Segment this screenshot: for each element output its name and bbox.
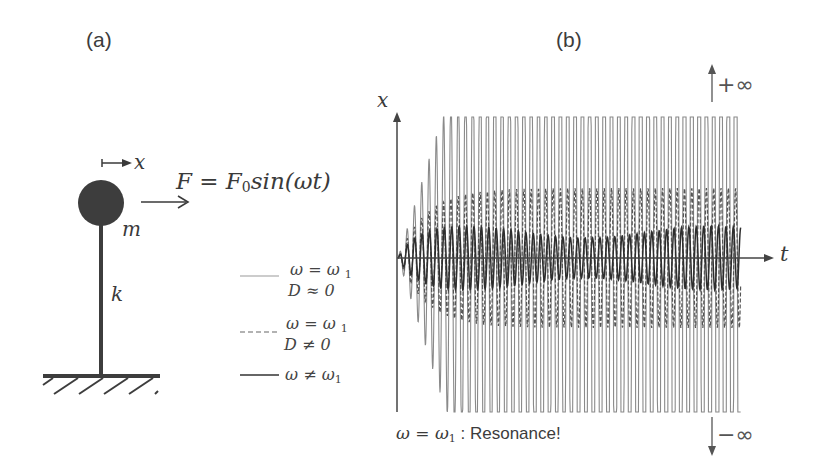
mass-label: m (122, 217, 141, 241)
force-arrow-icon (141, 196, 188, 208)
force-equation: F = F0sin(ωt) (176, 168, 331, 195)
minus-infinity-arrow-icon (708, 417, 716, 456)
legend-item-off-resonance: ω ≠ ω1 (285, 367, 342, 388)
resonance-caption: ω = ω1 : Resonance! (396, 423, 561, 445)
minus-infinity-label: −∞ (717, 422, 754, 447)
legend-line2: D ≈ 0 (288, 281, 335, 300)
plus-infinity-arrow-icon (708, 64, 716, 102)
displacement-arrow-icon (102, 159, 132, 167)
mass-ball (78, 180, 124, 226)
caption-subscript: 1 (449, 432, 456, 445)
legend-line1: ω = ω (290, 260, 340, 279)
legend-line1: ω ≠ ω (285, 365, 335, 384)
force-subscript: 0 (242, 179, 251, 195)
caption-text: : Resonance! (456, 424, 561, 443)
y-axis-label: x (377, 88, 388, 112)
force-equation-lhs: F = F (176, 168, 242, 194)
legend-sub: 1 (341, 322, 348, 335)
legend-item-damped: ω = ω 1 D ≠ 0 (284, 316, 348, 353)
spring-label: k (111, 282, 123, 306)
legend-sub: 1 (335, 373, 342, 386)
legend-item-undamped: ω = ω 1 D ≈ 0 (288, 262, 352, 299)
legend-line2: D ≠ 0 (284, 335, 331, 354)
plus-infinity-label: +∞ (717, 72, 754, 97)
legend-line1: ω = ω (286, 314, 336, 333)
x-axis-label: t (780, 242, 788, 266)
caption-math: ω = ω (396, 423, 449, 443)
force-equation-rhs: sin(ωt) (251, 168, 331, 194)
displacement-label: x (134, 150, 145, 174)
ground-hatch (43, 376, 160, 394)
response-plot (398, 117, 741, 412)
legend-sub: 1 (345, 268, 352, 281)
